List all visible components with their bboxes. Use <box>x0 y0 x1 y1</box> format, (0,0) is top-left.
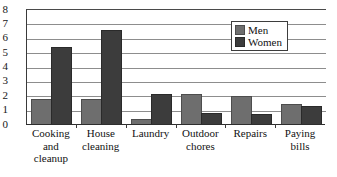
category-label-line: cleanup <box>20 152 82 165</box>
bar-women-3 <box>151 94 172 125</box>
bar-women-6 <box>301 106 322 125</box>
y-tick-label-2: 2 <box>0 90 8 101</box>
legend-label-women: Women <box>248 37 282 48</box>
y-tick-label-1: 1 <box>0 104 8 115</box>
bar-men-1 <box>31 99 52 125</box>
category-label-line: cleaning <box>70 140 132 153</box>
y-tick-label-5: 5 <box>0 47 8 58</box>
legend-swatch-men-icon <box>235 25 245 35</box>
bar-men-5 <box>231 96 252 125</box>
y-tick-label-7: 7 <box>0 18 8 29</box>
y-tick-label-4: 4 <box>0 61 8 72</box>
bar-men-4 <box>181 94 202 125</box>
y-tick-label-6: 6 <box>0 32 8 43</box>
category-label-6: Payingbills <box>269 127 331 152</box>
legend-item-women: Women <box>235 36 282 48</box>
category-label-line: Paying <box>269 127 331 140</box>
legend-swatch-women-icon <box>235 37 245 47</box>
bar-men-2 <box>81 99 102 125</box>
y-tick-label-8: 8 <box>0 4 8 15</box>
category-label-line: chores <box>170 140 232 153</box>
bar-women-2 <box>101 30 122 125</box>
category-label-line: bills <box>269 140 331 153</box>
bar-men-6 <box>281 104 302 125</box>
legend-item-men: Men <box>235 24 282 36</box>
grouped-bar-chart: 012345678 CookingandcleanupHousecleaning… <box>0 0 337 177</box>
y-tick-label-0: 0 <box>0 119 8 130</box>
legend-label-men: Men <box>248 25 268 36</box>
bar-women-1 <box>51 47 72 125</box>
y-tick-label-3: 3 <box>0 75 8 86</box>
chart-legend: Men Women <box>231 21 288 51</box>
